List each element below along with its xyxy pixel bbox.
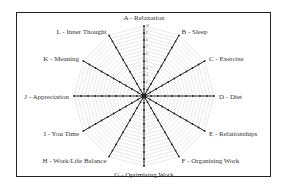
axis-tick-marker xyxy=(143,53,145,55)
axis-tick-marker xyxy=(137,99,139,101)
axis-tick-marker xyxy=(136,83,138,85)
category-label: E - Relationships xyxy=(209,130,257,138)
category-label: C - Exercise xyxy=(209,55,244,63)
axis-tick-marker xyxy=(108,156,110,158)
category-label: F - Organising Work xyxy=(182,157,240,165)
tick-label: 10 xyxy=(146,24,150,28)
tick-label: 3 xyxy=(146,73,148,77)
axis-tick-marker xyxy=(149,92,151,94)
axis-tick-marker xyxy=(115,95,117,97)
axis-tick-marker xyxy=(186,71,188,73)
category-label: L - Inner Thought xyxy=(57,28,107,36)
axis-tick-marker xyxy=(161,85,163,87)
axis-tick-marker xyxy=(171,144,173,146)
axis-tick-marker xyxy=(122,59,124,61)
axis-tick-marker xyxy=(122,95,124,97)
axis-tick-marker xyxy=(179,116,181,118)
axis-tick-marker xyxy=(173,78,175,80)
axis-tick-marker xyxy=(143,74,145,76)
axis-tick-marker xyxy=(131,88,133,90)
axis-tick-marker xyxy=(206,95,208,97)
axis-tick-marker xyxy=(133,113,135,115)
axis-tick-marker xyxy=(125,106,127,108)
category-label: I - You Time xyxy=(44,130,79,138)
axis-tick-marker xyxy=(204,60,206,62)
axis-tick-marker xyxy=(115,47,117,49)
axis-tick-marker xyxy=(192,67,194,69)
axis-tick-marker xyxy=(143,25,145,27)
axis-tick-marker xyxy=(143,165,145,167)
axis-tick-marker xyxy=(113,113,115,115)
axis-tick-marker xyxy=(143,81,145,83)
axis-tick-marker xyxy=(143,144,145,146)
axis-tick-marker xyxy=(157,119,159,121)
axis-tick-marker xyxy=(168,53,170,55)
axis-tick-marker xyxy=(164,95,166,97)
axis-tick-marker xyxy=(143,109,145,111)
axis-tick-marker xyxy=(149,99,151,101)
axis-tick-marker xyxy=(171,47,173,49)
axis-tick-marker xyxy=(204,130,206,132)
axis-tick-marker xyxy=(129,95,131,97)
axis-tick-marker xyxy=(192,123,194,125)
axis-tick-marker xyxy=(178,95,180,97)
tick-label: 8 xyxy=(146,38,148,42)
tick-label: 6 xyxy=(146,52,148,56)
axis-tick-marker xyxy=(82,130,84,132)
axis-tick-marker xyxy=(107,74,109,76)
axis-tick-marker xyxy=(143,137,145,139)
axis-tick-marker xyxy=(143,151,145,153)
axis-tick-marker xyxy=(119,138,121,140)
tick-label: 5 xyxy=(146,59,148,63)
axis-tick-marker xyxy=(147,101,149,103)
axis-tick-marker xyxy=(101,120,103,122)
axis-tick-marker xyxy=(107,116,109,118)
axis-tick-marker xyxy=(122,131,124,133)
axis-tick-marker xyxy=(95,123,97,125)
axis-tick-marker xyxy=(94,95,96,97)
axis-tick-marker xyxy=(155,102,157,104)
axis-tick-marker xyxy=(175,150,177,152)
axis-tick-marker xyxy=(178,34,180,36)
radar-chart: 12345678910 A - RelaxationB - SleepC - E… xyxy=(0,0,286,187)
axis-tick-marker xyxy=(119,109,121,111)
axis-tick-marker xyxy=(164,131,166,133)
axis-tick-marker xyxy=(167,81,169,83)
axis-tick-marker xyxy=(150,95,152,97)
tick-label: 2 xyxy=(146,80,148,84)
axis-tick-marker xyxy=(155,88,157,90)
tick-label: 9 xyxy=(146,31,148,35)
axis-tick-marker xyxy=(131,102,133,104)
axis-tick-marker xyxy=(140,89,142,91)
axis-tick-marker xyxy=(178,156,180,158)
axis-tick-marker xyxy=(80,95,82,97)
axis-tick-marker xyxy=(161,65,163,67)
axis-tick-marker xyxy=(108,34,110,36)
axis-tick-marker xyxy=(179,74,181,76)
axis-tick-marker xyxy=(119,81,121,83)
axis-tick-marker xyxy=(126,65,128,67)
axis-tick-marker xyxy=(171,95,173,97)
axis-tick-marker xyxy=(140,101,142,103)
axis-tick-marker xyxy=(113,78,115,80)
axis-tick-marker xyxy=(136,107,138,109)
axis-tick-marker xyxy=(133,77,135,79)
category-label: J - Appreciation xyxy=(24,93,69,101)
axis-tick-marker xyxy=(143,60,145,62)
axis-tick-marker xyxy=(150,107,152,109)
axis-tick-marker xyxy=(112,150,114,152)
axis-tick-marker xyxy=(143,46,145,48)
axis-tick-marker xyxy=(192,95,194,97)
axis-tick-marker xyxy=(157,71,159,73)
axis-tick-marker xyxy=(89,127,91,129)
axis-tick-marker xyxy=(198,64,200,66)
axis-tick-marker xyxy=(213,95,215,97)
axis-tick-marker xyxy=(167,109,169,111)
axis-tick-marker xyxy=(143,158,145,160)
axis-tick-marker xyxy=(115,144,117,146)
axis-tick-marker xyxy=(154,77,156,79)
tick-label: 7 xyxy=(146,45,148,49)
axis-tick-marker xyxy=(112,41,114,43)
axis-tick-marker xyxy=(95,67,97,69)
axis-tick-marker xyxy=(143,39,145,41)
